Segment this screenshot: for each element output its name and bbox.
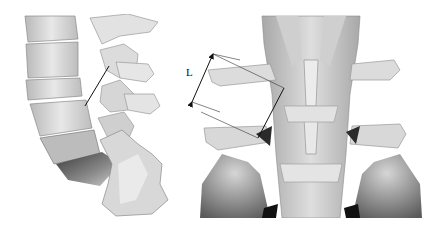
lateral-spine-illustration — [20, 14, 180, 218]
lateral-spine-graphic — [20, 14, 180, 218]
length-label: L — [186, 66, 193, 78]
length-arrow — [180, 40, 240, 120]
